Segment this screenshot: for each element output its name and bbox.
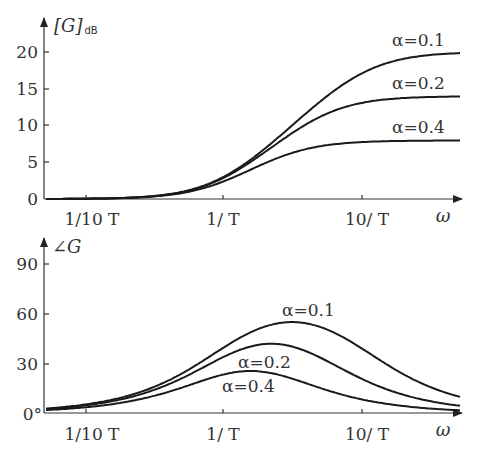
curve-label-alpha-0.1: α=0.1 <box>282 300 335 320</box>
curve-label-alpha-0.2: α=0.2 <box>238 352 291 372</box>
x-tick-label: 1/ T <box>206 209 240 229</box>
curve-label-alpha-0.2: α=0.2 <box>392 73 445 93</box>
x-tick-label: 10/ T <box>345 209 390 229</box>
x-tick-label: 1/10 T <box>65 209 121 229</box>
magnitude-curve-alpha-0.2 <box>46 97 460 199</box>
x-tick-label: 10/ T <box>345 424 390 444</box>
y-tick-label: 5 <box>27 152 38 172</box>
magnitude-plot: 20 15 10 5 0 1/10 T 1/ T 10/ T ω [G]dB α… <box>16 15 462 229</box>
magnitude-curve-alpha-0.4 <box>46 141 460 199</box>
x-tick-label: 1/10 T <box>65 424 121 444</box>
curve-label-alpha-0.1: α=0.1 <box>392 30 445 50</box>
y-tick-label: 0° <box>23 404 42 424</box>
y-tick-label: 90 <box>16 254 38 274</box>
y-tick-label: 15 <box>16 79 38 99</box>
x-axis-title: ω <box>436 419 451 440</box>
y-tick-label: 30 <box>16 354 38 374</box>
y-tick-label: 20 <box>16 42 38 62</box>
phase-plot: 90 60 30 0° 1/10 T 1/ T 10/ T ω ∠G α=0.1… <box>16 236 462 444</box>
y-tick-label: 0 <box>27 189 38 209</box>
x-axis-title: ω <box>436 205 451 226</box>
curve-label-alpha-0.4: α=0.4 <box>222 376 275 396</box>
magnitude-x-ticks: 1/10 T 1/ T 10/ T ω <box>65 195 451 229</box>
y-axis-title: [G]dB <box>54 15 98 36</box>
y-tick-label: 60 <box>16 304 38 324</box>
y-tick-label: 10 <box>16 115 38 135</box>
x-tick-label: 1/ T <box>206 424 240 444</box>
bode-plot: 20 15 10 5 0 1/10 T 1/ T 10/ T ω [G]dB α… <box>0 0 483 456</box>
curve-label-alpha-0.4: α=0.4 <box>392 117 445 137</box>
phase-x-ticks: 1/10 T 1/ T 10/ T ω <box>65 409 451 444</box>
y-axis-title: ∠G <box>52 236 81 257</box>
